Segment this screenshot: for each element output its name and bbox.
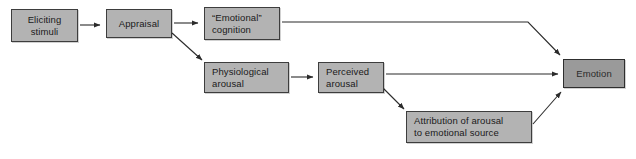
node-emotional-cognition: “Emotional” cognition	[204, 7, 280, 40]
node-physiological-arousal: Physiological arousal	[204, 62, 289, 93]
edge-perceived-arousal-to-attribution	[381, 86, 404, 109]
node-label-line: cognition	[212, 24, 272, 36]
node-label-line: Emotion	[576, 68, 612, 80]
node-appraisal: Appraisal	[106, 9, 172, 38]
node-label-line: stimuli	[31, 26, 59, 38]
node-attribution-of-arousal: Attribution of arousal to emotional sour…	[406, 111, 532, 143]
node-label-line: arousal	[212, 78, 281, 90]
edge-emotional-cognition-to-emotion	[282, 22, 560, 55]
node-label-line: Physiological	[212, 66, 281, 78]
node-label-line: Perceived	[326, 66, 376, 78]
node-label-line: Appraisal	[119, 18, 160, 30]
node-eliciting-stimuli: Eliciting stimuli	[11, 9, 78, 42]
node-label-line: to emotional source	[414, 127, 524, 139]
edge-appraisal-to-physiological-arousal	[172, 33, 202, 60]
node-label-line: Attribution of arousal	[414, 115, 524, 127]
node-label-line: “Emotional”	[212, 12, 272, 24]
edge-attribution-to-emotion	[533, 92, 561, 124]
node-perceived-arousal: Perceived arousal	[318, 62, 384, 93]
emotion-flow-diagram: Eliciting stimuli Appraisal “Emotional” …	[0, 0, 636, 159]
node-label-line: Eliciting	[28, 14, 62, 26]
node-emotion: Emotion	[563, 59, 625, 88]
node-label-line: arousal	[326, 78, 376, 90]
